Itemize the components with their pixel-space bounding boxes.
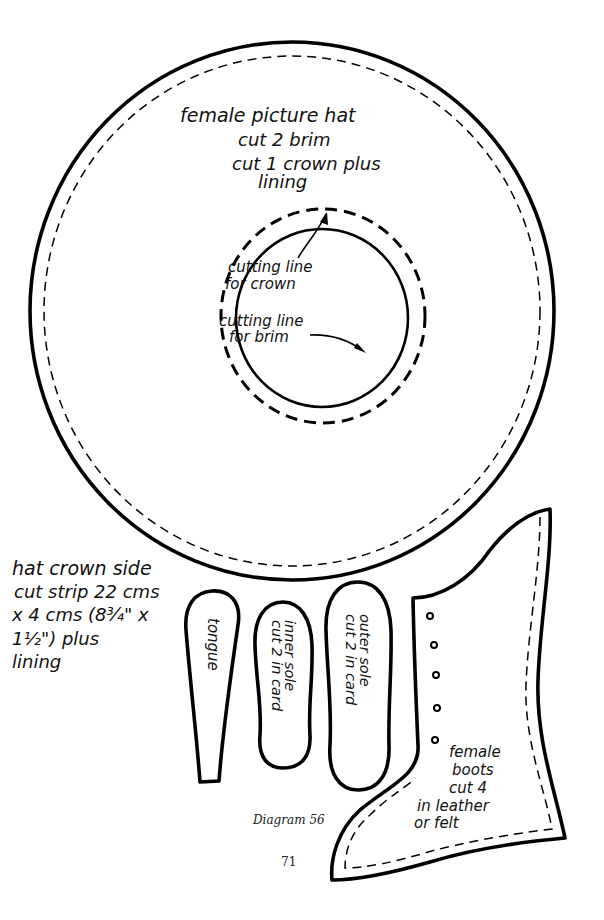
figure-caption: Diagram 56 (252, 813, 325, 827)
brim-label-line-2: for brim (229, 328, 289, 346)
boot-label-line-1: female (449, 743, 501, 761)
crown-side-line-3: x 4 cms (8¾" x (11, 604, 149, 625)
boot-label-line-2: boots (452, 761, 494, 779)
crown-label-line-2: for crown (225, 275, 296, 293)
eyelet-icon (427, 613, 433, 619)
eyelet-icon (432, 737, 438, 743)
eyelet-row (427, 613, 440, 743)
outer-sole-pattern: outer sole cut 2 in card (326, 582, 391, 790)
boot-label-line-4: in leather (417, 797, 490, 815)
crown-side-line-2: cut strip 22 cms (14, 581, 160, 602)
brim-arrow (310, 335, 366, 353)
crown-side-line-1: hat crown side (12, 557, 152, 579)
crown-side-line-4: 1½") plus (12, 628, 99, 649)
page-number: 71 (281, 855, 296, 869)
crown-arrow (298, 212, 328, 258)
tongue-pattern: tongue (186, 591, 239, 782)
eyelet-icon (433, 672, 439, 678)
hat-label: female picture hat cut 2 brim cut 1 crow… (180, 104, 381, 192)
hat-label-line-4: lining (258, 171, 307, 192)
eyelet-icon (431, 642, 437, 648)
inner-sole-pattern: inner sole cut 2 in card (255, 602, 312, 768)
eyelet-icon (434, 705, 440, 711)
boot-label-line-3: cut 4 (449, 779, 487, 797)
pattern-diagram-page: female picture hat cut 2 brim cut 1 crow… (0, 0, 604, 920)
outer-sole-label-line-2: cut 2 in card (343, 614, 359, 706)
crown-label-line-1: cutting line (228, 258, 313, 276)
boot-pattern: female boots cut 4 in leather or felt (332, 509, 565, 880)
crown-side-label: hat crown side cut strip 22 cms x 4 cms … (11, 557, 160, 672)
hat-label-line-2: cut 2 brim (238, 129, 331, 150)
boot-label-line-5: or felt (414, 814, 460, 832)
tongue-label: tongue (204, 618, 222, 671)
hat-label-line-1: female picture hat (180, 104, 357, 126)
inner-sole-label-line-2: cut 2 in card (269, 620, 285, 712)
crown-side-line-5: lining (12, 651, 61, 672)
